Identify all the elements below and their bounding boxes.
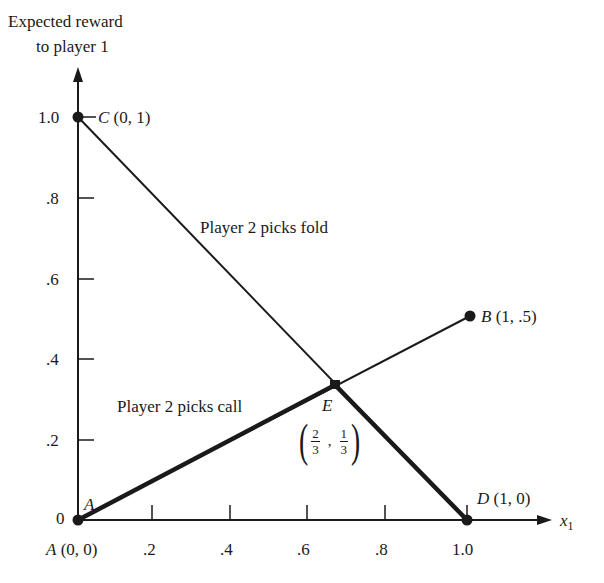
- point-a-coords: (0, 0): [61, 540, 98, 559]
- x-axis-arrow-icon: [537, 515, 552, 525]
- point-a-dot: [73, 515, 84, 526]
- point-c-letter: C: [98, 108, 109, 127]
- y-tick-0-8: .8: [46, 190, 59, 207]
- frac-y-num: 1: [340, 427, 349, 442]
- fold-line-annotation: Player 2 picks fold: [200, 219, 328, 236]
- point-b-coords: (1, .5): [496, 307, 537, 326]
- x-tick-0-8: .8: [375, 541, 388, 558]
- y-tick-0-6: .6: [46, 271, 59, 288]
- x-axis-var: x: [560, 511, 568, 530]
- y-axis-arrow-icon: [73, 67, 83, 82]
- frac-x-den: 3: [312, 442, 319, 456]
- y-axis-title-line2: to player 1: [36, 38, 109, 55]
- y-tick-0-4: .4: [46, 351, 59, 368]
- y-axis-title-line1: Expected reward: [8, 13, 123, 30]
- point-c-label: C (0, 1): [98, 109, 150, 126]
- frac-x-num: 2: [311, 427, 320, 442]
- point-c-dot: [73, 112, 84, 123]
- point-b-label: B (1, .5): [481, 308, 537, 325]
- call-line-annotation: Player 2 picks call: [117, 398, 242, 415]
- y-ticks: [78, 198, 94, 440]
- point-c-coords: (0, 1): [114, 108, 151, 127]
- point-e-x-fraction: 2 3: [311, 427, 320, 456]
- point-a-label: A (0, 0): [46, 541, 97, 558]
- comma: ,: [328, 434, 332, 449]
- frac-y-den: 3: [341, 442, 348, 456]
- point-e-letter: E: [322, 397, 332, 414]
- point-b-dot: [465, 311, 476, 322]
- point-d-letter: D: [477, 489, 489, 508]
- point-a-axis-letter: A: [84, 496, 94, 513]
- x-tick-0-4: .4: [220, 541, 233, 558]
- paren-close: ): [351, 418, 360, 464]
- point-e-dot: [330, 380, 340, 389]
- x-tick-1-0: 1.0: [452, 541, 473, 558]
- x-ticks: [152, 505, 467, 520]
- x-axis-label: x1: [560, 512, 574, 532]
- y-tick-0-2: .2: [46, 432, 59, 449]
- x-tick-0-6: .6: [297, 541, 310, 558]
- x-tick-0-2: .2: [143, 541, 156, 558]
- x-axis-sub: 1: [568, 519, 574, 533]
- point-d-dot: [462, 515, 473, 526]
- point-e-coords: ( 2 3 , 1 3 ): [296, 418, 363, 464]
- point-e-y-fraction: 1 3: [340, 427, 349, 456]
- point-d-coords: (1, 0): [494, 489, 531, 508]
- paren-open: (: [299, 418, 308, 464]
- point-a-letter: A: [46, 540, 56, 559]
- point-d-label: D (1, 0): [477, 490, 530, 507]
- y-tick-1-0: 1.0: [38, 109, 59, 126]
- point-b-letter: B: [481, 307, 491, 326]
- y-tick-0: 0: [56, 510, 65, 527]
